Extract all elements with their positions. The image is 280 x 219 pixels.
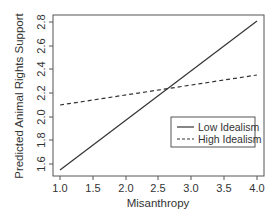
series-high-idealism-line [60,75,257,105]
legend-label-low-idealism: Low Idealism [198,121,260,133]
x-tick-label: 1.0 [52,182,67,194]
x-tick-label: 3.0 [183,182,198,194]
x-axis: 1.0 1.5 2.0 2.5 3.0 3.5 4.0 Misanthropy [52,176,264,209]
x-tick-label: 3.5 [216,182,231,194]
x-axis-title: Misanthropy [127,197,190,209]
y-axis-title: Predicted Animal Rights Support [13,12,25,178]
legend-label-high-idealism: High Idealism [198,133,262,145]
y-tick-label: 2.2 [35,85,47,100]
y-tick-label: 1.6 [35,156,47,171]
y-tick-label: 2.4 [35,61,47,76]
y-tick-label: 2.6 [35,38,47,53]
x-tick-label: 2.0 [118,182,133,194]
y-tick-label: 1.8 [35,132,47,147]
x-tick-label: 1.5 [85,182,100,194]
y-axis: 1.6 1.8 2.0 2.2 2.4 2.6 2.8 Predicted An… [13,12,53,178]
x-tick-label: 2.5 [150,182,165,194]
legend: Low Idealism High Idealism [171,117,262,147]
y-tick-label: 2.0 [35,109,47,124]
y-tick-label: 2.8 [35,14,47,29]
chart: 1.0 1.5 2.0 2.5 3.0 3.5 4.0 Misanthropy … [0,0,280,219]
x-tick-label: 4.0 [249,182,264,194]
series-low-idealism-line [60,21,257,170]
